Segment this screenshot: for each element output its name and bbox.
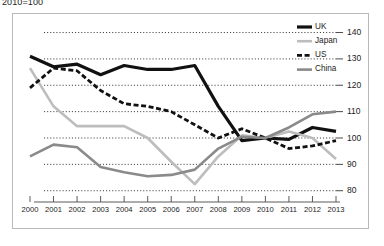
x-tick-label: 2013: [328, 205, 345, 214]
x-tick-label: 2008: [210, 205, 227, 214]
x-tick-label: 2003: [92, 205, 109, 214]
series-line-us: [30, 68, 336, 148]
x-axis-ticks: [30, 196, 340, 202]
x-tick-label: 2004: [116, 205, 133, 214]
series-line-china: [30, 112, 336, 177]
legend-swatches: [297, 27, 312, 70]
data-series: [30, 56, 336, 184]
figure: 2010=100 8090100110120130140 20002001200…: [0, 0, 384, 246]
x-tick-label: 2001: [45, 205, 62, 214]
y-tick-label: 80: [347, 185, 356, 195]
y-tick-label: 140: [347, 27, 361, 37]
y-tick-label: 130: [347, 53, 361, 63]
x-tick-label: 2006: [163, 205, 180, 214]
x-tick-label: 2002: [69, 205, 86, 214]
y-tick-label: 110: [347, 106, 361, 116]
y-tick-label: 90: [347, 159, 356, 169]
y-tick-label: 100: [347, 133, 361, 143]
y-tick-label: 120: [347, 80, 361, 90]
x-tick-label: 2000: [22, 205, 39, 214]
legend-label-uk[interactable]: UK: [315, 22, 326, 31]
y-axis-ticks: [336, 33, 343, 191]
legend-label-china[interactable]: China: [315, 64, 336, 73]
gridlines: [44, 33, 336, 191]
x-tick-label: 2007: [186, 205, 203, 214]
x-tick-label: 2009: [233, 205, 250, 214]
legend-label-us[interactable]: US: [315, 50, 326, 59]
legend-label-japan[interactable]: Japan: [315, 36, 337, 45]
x-tick-label: 2005: [139, 205, 156, 214]
x-tick-label: 2011: [281, 205, 297, 214]
x-tick-label: 2010: [257, 205, 274, 214]
x-tick-label: 2012: [304, 205, 321, 214]
